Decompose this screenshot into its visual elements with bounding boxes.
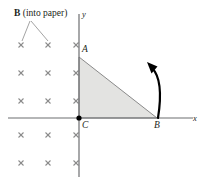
magnetic-field-marks-group xyxy=(19,43,79,166)
field-into-paper-text: (into paper) xyxy=(20,8,67,18)
field-into-page-x-mark xyxy=(74,133,79,138)
y-axis-label: y xyxy=(82,10,86,19)
field-into-page-x-mark xyxy=(19,161,24,166)
field-into-page-x-mark xyxy=(74,43,79,48)
leader-line xyxy=(31,21,48,41)
x-axis-label: x xyxy=(193,114,197,123)
field-into-page-x-mark xyxy=(46,133,51,138)
diagram-canvas xyxy=(0,0,203,184)
magnetic-field-triangle-diagram: B (into paper) A B C x y xyxy=(0,0,203,184)
field-into-page-x-mark xyxy=(19,133,24,138)
vertex-label-a: A xyxy=(82,45,88,55)
field-into-page-x-mark xyxy=(19,43,24,48)
field-into-page-x-mark xyxy=(46,43,51,48)
triangle-loop-abc xyxy=(79,57,157,118)
origin-point-dot xyxy=(76,115,81,120)
leader-line xyxy=(22,21,30,41)
vertex-label-b: B xyxy=(154,121,160,131)
vertex-label-c: C xyxy=(82,121,88,131)
field-into-page-x-mark xyxy=(74,99,79,104)
field-label-leader-lines xyxy=(22,21,48,41)
magnetic-field-label: B (into paper) xyxy=(14,9,67,19)
field-into-page-x-mark xyxy=(19,71,24,76)
field-into-page-x-mark xyxy=(19,99,24,104)
field-into-page-x-mark xyxy=(46,99,51,104)
rotation-arrow-curve xyxy=(152,68,160,118)
field-into-page-x-mark xyxy=(74,161,79,166)
field-into-page-x-mark xyxy=(46,161,51,166)
field-into-page-x-mark xyxy=(46,71,51,76)
field-into-page-x-mark xyxy=(74,71,79,76)
